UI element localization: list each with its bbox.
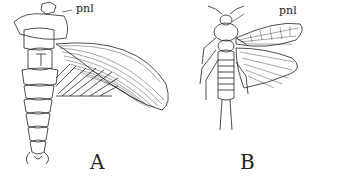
insect-b-drawing: [200, 6, 302, 130]
pnl-leader-a: [62, 10, 72, 12]
insect-a-drawing: [14, 2, 168, 164]
pnl-leader-b: [232, 14, 244, 22]
insect-drawings: [0, 0, 337, 178]
panel-label-b: B: [240, 150, 255, 174]
figure: pnl pnl A B: [0, 0, 337, 178]
insect-a-wing-venation: [60, 46, 164, 108]
panel-label-a: A: [90, 150, 104, 174]
annotation-pnl-b: pnl: [279, 4, 297, 17]
annotation-pnl-a: pnl: [76, 2, 94, 15]
